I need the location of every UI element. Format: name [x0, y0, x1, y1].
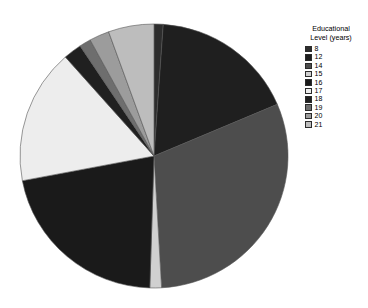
- legend-item-label: 17: [315, 87, 323, 95]
- legend-swatch-icon: [305, 113, 312, 120]
- legend-item: 12: [305, 53, 322, 61]
- legend-item-label: 15: [315, 70, 323, 78]
- pie-chart-figure: Educational Level (years) 81214151617181…: [0, 0, 368, 308]
- pie-svg: [18, 22, 290, 290]
- legend-swatch-icon: [305, 88, 312, 95]
- legend-swatch-icon: [305, 46, 312, 53]
- legend-swatch-icon: [305, 96, 312, 103]
- legend-item-label: 16: [315, 79, 323, 87]
- legend-items: 8121415161718192021: [296, 45, 366, 129]
- legend-item-label: 18: [315, 95, 323, 103]
- legend-item: 20: [305, 112, 322, 120]
- legend-title: Educational Level (years): [296, 24, 366, 42]
- legend-swatch-icon: [305, 121, 312, 128]
- legend-item-label: 14: [315, 62, 323, 70]
- pie-plot-area: [18, 22, 290, 290]
- legend-item: 15: [305, 70, 322, 78]
- legend-item: 18: [305, 95, 322, 103]
- legend-swatch-icon: [305, 104, 312, 111]
- legend-item: 21: [305, 121, 322, 129]
- legend-swatch-icon: [305, 63, 312, 70]
- legend-item: 14: [305, 62, 322, 70]
- legend-item-label: 8: [315, 45, 319, 53]
- legend-item: 17: [305, 87, 322, 95]
- legend-swatch-icon: [305, 79, 312, 86]
- pie-slice-group: [20, 24, 288, 288]
- legend-item-label: 19: [315, 104, 323, 112]
- legend-swatch-icon: [305, 71, 312, 78]
- legend: Educational Level (years) 81214151617181…: [296, 24, 366, 129]
- legend-swatch-icon: [305, 54, 312, 61]
- legend-item: 16: [305, 79, 322, 87]
- legend-item: 8: [305, 45, 318, 53]
- legend-item-label: 20: [315, 112, 323, 120]
- legend-item: 19: [305, 104, 322, 112]
- legend-item-label: 12: [315, 53, 323, 61]
- legend-item-label: 21: [315, 121, 323, 129]
